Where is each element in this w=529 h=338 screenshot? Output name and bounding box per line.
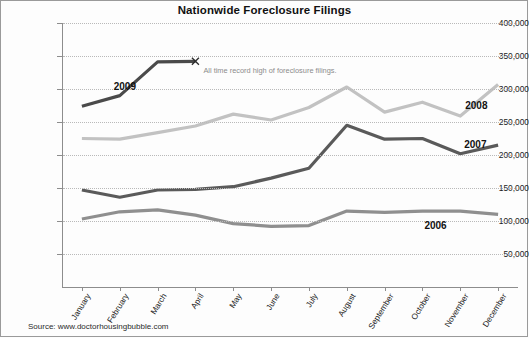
y-axis-tick-mark	[57, 155, 62, 156]
y-axis-tick-mark	[57, 188, 62, 189]
gridline	[63, 122, 517, 123]
x-axis-tick-mark	[347, 287, 348, 291]
y-axis-tick-mark	[57, 122, 62, 123]
y-axis-tick-mark	[57, 56, 62, 57]
y-axis-tick-mark	[57, 254, 62, 255]
x-axis-line	[62, 287, 518, 288]
x-axis-tick-mark	[120, 287, 121, 291]
gridline	[63, 56, 517, 57]
x-axis-tick-mark	[309, 287, 310, 291]
series-line-2008	[82, 84, 498, 139]
gridline	[63, 221, 517, 222]
y-axis-tick-mark	[57, 89, 62, 90]
gridline	[63, 23, 517, 24]
series-label-2007: 2007	[464, 139, 486, 150]
chart-container: Nationwide Foreclosure Filings 400,00035…	[0, 0, 529, 338]
source-caption: Source: www.doctorhousingbubble.com	[28, 322, 169, 331]
x-axis-tick-mark	[460, 287, 461, 291]
gridline	[63, 155, 517, 156]
series-label-2006: 2006	[424, 220, 446, 231]
y-axis-tick-mark	[57, 23, 62, 24]
series-line-2009	[82, 61, 195, 106]
series-label-2008: 2008	[465, 100, 487, 111]
series-label-2009: 2009	[114, 81, 136, 92]
x-axis-tick-mark	[82, 287, 83, 291]
x-axis-tick-mark	[271, 287, 272, 291]
x-axis-tick-mark	[158, 287, 159, 291]
gridline	[63, 188, 517, 189]
x-axis-tick-mark	[498, 287, 499, 291]
chart-title: Nationwide Foreclosure Filings	[0, 4, 529, 16]
plot-area	[63, 23, 517, 287]
x-axis-tick-mark	[422, 287, 423, 291]
gridline	[63, 254, 517, 255]
y-axis-tick-mark	[57, 221, 62, 222]
x-axis-tick-mark	[385, 287, 386, 291]
x-axis-tick-mark	[195, 287, 196, 291]
annotation-record-high: All time record high of foreclosure fili…	[203, 66, 336, 75]
x-axis-tick-mark	[233, 287, 234, 291]
